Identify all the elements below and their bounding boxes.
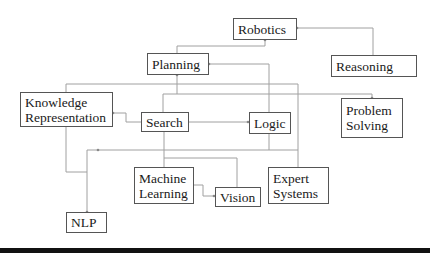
bottom-divider-bar <box>0 248 430 253</box>
node-label-line1: Problem <box>346 103 398 118</box>
node-machine-learning: Machine Learning <box>134 167 194 204</box>
node-vision: Vision <box>215 187 261 207</box>
node-label-line2: Representation <box>25 110 108 125</box>
node-label: Planning <box>152 57 204 72</box>
node-label-line1: Knowledge <box>25 95 108 110</box>
node-label-line2: Learning <box>139 186 189 201</box>
node-nlp: NLP <box>66 212 107 233</box>
node-label-line2: Solving <box>346 118 398 133</box>
ai-concept-diagram: Robotics Reasoning Planning Knowledge Re… <box>0 0 430 255</box>
node-label-line1: Machine <box>139 171 189 186</box>
node-label: Vision <box>220 190 256 205</box>
node-problem-solving: Problem Solving <box>341 98 403 138</box>
node-label: Search <box>146 115 184 130</box>
node-label: Logic <box>254 116 286 131</box>
node-reasoning: Reasoning <box>331 55 417 77</box>
node-expert-systems: Expert Systems <box>268 167 329 204</box>
node-label-line2: Systems <box>273 186 324 201</box>
node-label: Reasoning <box>336 59 412 74</box>
node-robotics: Robotics <box>233 18 297 40</box>
node-planning: Planning <box>147 53 209 75</box>
node-label: Robotics <box>238 22 292 37</box>
node-logic: Logic <box>249 112 291 134</box>
node-label: NLP <box>71 215 102 230</box>
node-knowledge-representation: Knowledge Representation <box>20 92 113 127</box>
node-label-line1: Expert <box>273 171 324 186</box>
node-search: Search <box>141 112 189 132</box>
